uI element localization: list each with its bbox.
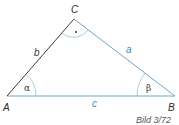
side-a-line <box>74 19 175 96</box>
right-triangle-diagram: A B C b a c α β Bild 3/72 <box>0 0 179 125</box>
angle-gamma-arc <box>62 30 88 37</box>
angle-beta-label: β <box>146 83 151 93</box>
side-c-label: c <box>92 98 97 109</box>
figure-caption: Bild 3/72 <box>136 115 171 125</box>
angle-beta-arc <box>137 73 145 96</box>
side-b-line <box>7 19 74 96</box>
vertex-a-label: A <box>2 102 10 113</box>
angle-alpha-label: α <box>24 83 30 93</box>
side-a-label: a <box>126 44 132 55</box>
vertex-b-label: B <box>168 102 175 113</box>
vertex-c-label: C <box>71 4 79 15</box>
side-b-label: b <box>34 47 40 58</box>
right-angle-dot <box>75 31 77 33</box>
